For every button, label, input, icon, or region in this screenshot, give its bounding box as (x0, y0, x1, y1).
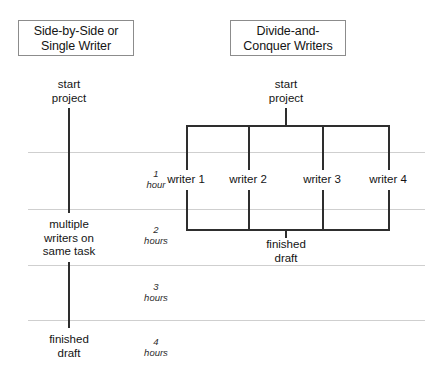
writer-1-stem-lower (186, 190, 188, 230)
time-label-2-hours: 2 hours (138, 224, 174, 246)
gridline-hour-1 (28, 152, 425, 153)
fork-bar-split (186, 125, 390, 127)
right-start-stem (285, 108, 287, 126)
left-start-project-label: start project (28, 78, 110, 105)
writer-4-stem-upper (388, 125, 390, 170)
gridline-hour-4 (28, 320, 425, 321)
time-label-4-number: 4 (138, 336, 174, 347)
writer-1-stem-upper (186, 125, 188, 170)
writer-4-stem-lower (388, 190, 390, 230)
title-box-side-by-side: Side-by-Side or Single Writer (18, 20, 134, 56)
title-right-line2: Conquer Writers (231, 39, 345, 54)
left-finished-line2: draft (28, 347, 110, 361)
title-right-line1: Divide-and- (231, 24, 345, 39)
writer-4-label: writer 4 (358, 173, 418, 187)
time-label-2-number: 2 (138, 224, 174, 235)
right-start-line2: project (245, 92, 327, 106)
left-multiple-writers-label: multiple writers on same task (28, 218, 110, 259)
right-finished-line1: finished (245, 238, 327, 252)
left-finished-draft-label: finished draft (28, 333, 110, 360)
writer-3-stem-lower (322, 190, 324, 230)
gridline-hour-2 (28, 209, 425, 210)
writer-1-label: writer 1 (156, 173, 216, 187)
left-multiple-line3: same task (28, 245, 110, 259)
time-label-4-hours: 4 hours (138, 336, 174, 358)
writer-3-stem-upper (322, 125, 324, 170)
writer-2-label: writer 2 (218, 173, 278, 187)
title-box-divide-and-conquer: Divide-and- Conquer Writers (230, 20, 346, 56)
writer-2-stem-lower (248, 190, 250, 230)
left-start-line2: project (28, 92, 110, 106)
right-finished-draft-label: finished draft (245, 238, 327, 265)
left-timeline-segment-1 (68, 108, 70, 213)
time-label-3-number: 3 (138, 281, 174, 292)
gridline-hour-3 (28, 265, 425, 266)
merge-bar-join (186, 229, 390, 231)
left-start-line1: start (28, 78, 110, 92)
right-start-project-label: start project (245, 78, 327, 105)
right-finished-stem (285, 229, 287, 238)
right-finished-line2: draft (245, 252, 327, 266)
left-timeline-segment-2 (68, 262, 70, 328)
time-label-3-unit: hours (138, 292, 174, 303)
time-label-4-unit: hours (138, 347, 174, 358)
diagram-canvas: Side-by-Side or Single Writer Divide-and… (0, 0, 435, 371)
writer-3-label: writer 3 (292, 173, 352, 187)
time-label-2-unit: hours (138, 235, 174, 246)
writer-2-stem-upper (248, 125, 250, 170)
right-start-line1: start (245, 78, 327, 92)
title-left-line1: Side-by-Side or (19, 24, 133, 39)
title-left-line2: Single Writer (19, 39, 133, 54)
left-multiple-line1: multiple (28, 218, 110, 232)
time-label-3-hours: 3 hours (138, 281, 174, 303)
left-multiple-line2: writers on (28, 232, 110, 246)
left-finished-line1: finished (28, 333, 110, 347)
